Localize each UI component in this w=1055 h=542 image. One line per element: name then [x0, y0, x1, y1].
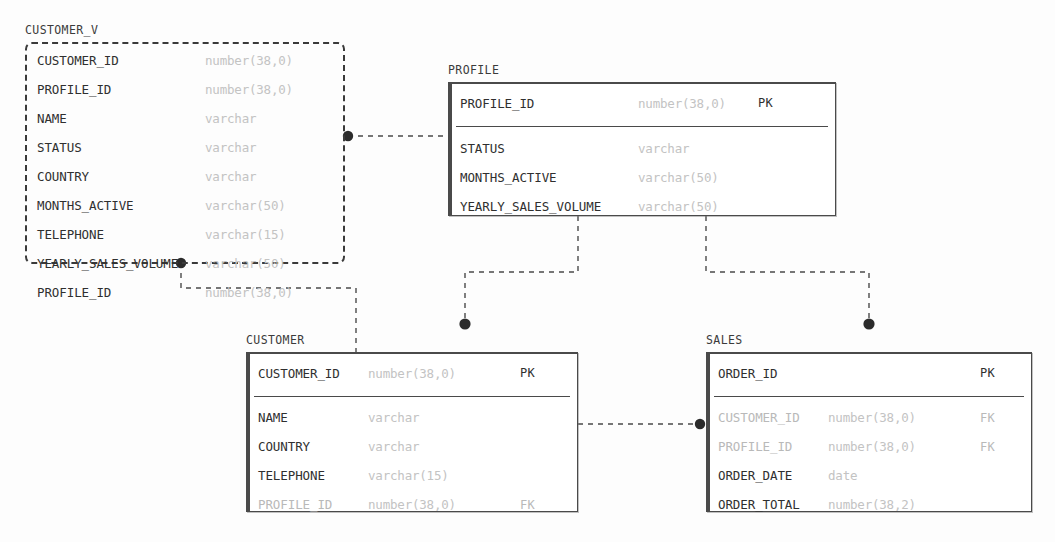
field-name: COUNTRY	[258, 439, 368, 454]
field-name: YEARLY_SALES_VOLUME	[37, 256, 205, 271]
field-type: number(38,0)	[638, 96, 758, 111]
field-type: varchar(50)	[638, 199, 758, 214]
field-key-badge: FK	[980, 411, 995, 425]
field-name: MONTHS_ACTIVE	[460, 170, 638, 185]
field-type: varchar	[368, 410, 520, 425]
field-row[interactable]: TELEPHONE varchar(15)	[246, 461, 578, 490]
field-row-pk[interactable]: ORDER_ID PK	[706, 355, 1032, 391]
field-type: varchar(50)	[205, 198, 286, 213]
entity-title-customer: CUSTOMER	[246, 333, 305, 347]
field-type: number(38,0)	[828, 439, 980, 454]
field-row[interactable]: COUNTRY varchar	[246, 432, 578, 461]
field-key-badge: FK	[520, 498, 535, 512]
entity-sales[interactable]: SALES ORDER_ID PK CUSTOMER_ID number(38,…	[706, 352, 1032, 512]
field-row[interactable]: TELEPHONE varchar(15)	[25, 220, 345, 249]
entity-title-sales: SALES	[706, 333, 743, 347]
field-name: NAME	[37, 111, 205, 126]
field-row[interactable]: NAME varchar	[25, 104, 345, 133]
field-type: number(38,0)	[368, 366, 520, 381]
field-name: PROFILE_ID	[718, 439, 828, 454]
pk-separator	[254, 396, 570, 397]
field-name: NAME	[258, 410, 368, 425]
field-row[interactable]: ORDER_DATE date	[706, 461, 1032, 490]
field-name: ORDER_DATE	[718, 468, 828, 483]
entity-profile[interactable]: PROFILE PROFILE_ID number(38,0) PK STATU…	[448, 82, 836, 216]
field-row-pk[interactable]: CUSTOMER_ID number(38,0) PK	[246, 355, 578, 391]
field-type: number(38,2)	[828, 497, 980, 512]
field-name: MONTHS_ACTIVE	[37, 198, 205, 213]
relationship-dot	[459, 318, 470, 329]
field-name: TELEPHONE	[37, 227, 205, 242]
entity-title-customer_v: CUSTOMER_V	[25, 23, 98, 37]
field-type: varchar(50)	[205, 256, 286, 271]
field-type: number(38,0)	[205, 285, 293, 300]
field-row[interactable]: ORDER_TOTAL number(38,2)	[706, 490, 1032, 519]
field-type: number(38,0)	[368, 497, 520, 512]
field-row[interactable]: YEARLY_SALES_VOLUME varchar(50)	[448, 192, 836, 221]
field-name: ORDER_TOTAL	[718, 497, 828, 512]
field-name: PROFILE_ID	[37, 82, 205, 97]
field-type: varchar(15)	[205, 227, 286, 242]
entity-title-profile: PROFILE	[448, 63, 499, 77]
field-row[interactable]: MONTHS_ACTIVE varchar(50)	[448, 163, 836, 192]
er-diagram-canvas: CUSTOMER_V CUSTOMER_ID number(38,0) PROF…	[0, 0, 1055, 542]
field-type: varchar(50)	[638, 170, 758, 185]
field-type: varchar	[368, 439, 520, 454]
field-type: number(38,0)	[205, 53, 293, 68]
field-name: CUSTOMER_ID	[718, 410, 828, 425]
field-row[interactable]: CUSTOMER_ID number(38,0) FK	[706, 403, 1032, 432]
field-row[interactable]: MONTHS_ACTIVE varchar(50)	[25, 191, 345, 220]
field-key-badge: PK	[520, 366, 535, 380]
field-key-badge: PK	[758, 96, 773, 110]
field-type: number(38,0)	[828, 410, 980, 425]
connector-profile-sales	[706, 216, 869, 320]
pk-separator	[714, 396, 1024, 397]
field-name: CUSTOMER_ID	[37, 53, 205, 68]
field-row-pk[interactable]: PROFILE_ID number(38,0) PK	[448, 85, 836, 121]
field-type: number(38,0)	[205, 82, 293, 97]
field-row[interactable]: NAME varchar	[246, 403, 578, 432]
field-type: varchar(15)	[368, 468, 520, 483]
entity-customer_v[interactable]: CUSTOMER_V CUSTOMER_ID number(38,0) PROF…	[25, 42, 345, 264]
field-name: TELEPHONE	[258, 468, 368, 483]
field-key-badge: FK	[980, 440, 995, 454]
connector-profile-customer	[465, 216, 578, 320]
field-type: varchar	[638, 141, 758, 156]
field-row[interactable]: PROFILE_ID number(38,0)	[25, 75, 345, 104]
relationship-dot	[863, 318, 874, 329]
field-row[interactable]: COUNTRY varchar	[25, 162, 345, 191]
pk-separator	[456, 126, 828, 127]
field-name: YEARLY_SALES_VOLUME	[460, 199, 638, 214]
field-name: PROFILE_ID	[460, 96, 638, 111]
field-row[interactable]: STATUS varchar	[25, 133, 345, 162]
field-name: STATUS	[37, 140, 205, 155]
field-row[interactable]: CUSTOMER_ID number(38,0)	[25, 46, 345, 75]
field-type: varchar	[205, 169, 256, 184]
field-name: PROFILE_ID	[258, 497, 368, 512]
field-type: varchar	[205, 140, 256, 155]
field-name: CUSTOMER_ID	[258, 366, 368, 381]
field-name: ORDER_ID	[718, 366, 828, 381]
field-type: varchar	[205, 111, 256, 126]
field-key-badge: PK	[980, 366, 995, 380]
field-name: PROFILE_ID	[37, 285, 205, 300]
relationship-dot	[695, 419, 705, 429]
field-row[interactable]: YEARLY_SALES_VOLUME varchar(50)	[25, 249, 345, 278]
field-row[interactable]: PROFILE_ID number(38,0) FK	[706, 432, 1032, 461]
field-row[interactable]: PROFILE_ID number(38,0)	[25, 278, 345, 307]
field-name: COUNTRY	[37, 169, 205, 184]
field-row[interactable]: STATUS varchar	[448, 134, 836, 163]
field-name: STATUS	[460, 141, 638, 156]
field-type: date	[828, 468, 980, 483]
field-row[interactable]: PROFILE_ID number(38,0) FK	[246, 490, 578, 519]
entity-customer[interactable]: CUSTOMER CUSTOMER_ID number(38,0) PK NAM…	[246, 352, 578, 512]
